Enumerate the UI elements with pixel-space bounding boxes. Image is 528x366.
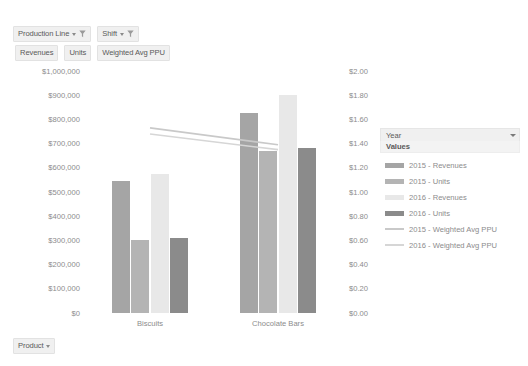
bar-data-point[interactable] xyxy=(240,113,258,313)
legend-item-label: 2015 - Weighted Avg PPU xyxy=(409,225,497,234)
field-button-weighted-avg-ppu[interactable]: Weighted Avg PPU xyxy=(97,45,170,61)
field-button-product[interactable]: Product xyxy=(13,338,55,354)
legend-item-label: 2016 - Revenues xyxy=(409,193,467,202)
legend-item[interactable]: 2016 - Weighted Avg PPU xyxy=(380,237,520,253)
legend-bar-swatch-icon xyxy=(385,163,404,168)
pivotchart-value-buttons: Revenues Units Weighted Avg PPU xyxy=(15,45,170,61)
legend-item-list: 2015 - Revenues2015 - Units2016 - Revenu… xyxy=(380,153,520,253)
legend-bar-swatch-icon xyxy=(385,195,404,200)
legend-line-swatch-icon xyxy=(385,228,404,229)
pivotchart-axis-buttons: Product xyxy=(13,338,55,354)
legend-swatch-wrap xyxy=(380,195,408,200)
chart-legend[interactable]: Year Values 2015 - Revenues2015 - Units2… xyxy=(380,128,520,253)
filter-funnel-icon xyxy=(127,30,134,38)
filter-funnel-icon xyxy=(79,30,86,38)
chevron-down-icon xyxy=(72,33,76,36)
legend-subheader-label: Values xyxy=(386,142,410,151)
field-button-units[interactable]: Units xyxy=(64,45,91,61)
field-button-label: Units xyxy=(69,47,86,58)
pivotchart-filter-buttons: Production Line Shift xyxy=(13,26,139,42)
field-button-label: Production Line xyxy=(18,28,69,39)
bar-data-point[interactable] xyxy=(131,240,149,313)
field-button-label: Weighted Avg PPU xyxy=(102,47,165,58)
field-button-label: Shift xyxy=(102,28,117,39)
legend-item-label: 2016 - Weighted Avg PPU xyxy=(409,241,497,250)
legend-item[interactable]: 2015 - Units xyxy=(380,173,520,189)
legend-bar-swatch-icon xyxy=(385,211,404,216)
bar-data-point[interactable] xyxy=(259,151,277,313)
legend-line-swatch-icon xyxy=(385,244,404,245)
legend-item[interactable]: 2016 - Units xyxy=(380,205,520,221)
bar-data-point[interactable] xyxy=(298,148,316,313)
legend-field-button-year[interactable]: Year xyxy=(380,128,520,141)
field-button-label: Product xyxy=(18,340,43,351)
field-button-revenues[interactable]: Revenues xyxy=(15,45,58,61)
legend-swatch-wrap xyxy=(380,179,408,184)
legend-swatch-wrap xyxy=(380,163,408,168)
field-button-shift[interactable]: Shift xyxy=(97,26,139,42)
legend-subheader-values: Values xyxy=(380,141,520,153)
bar-data-point[interactable] xyxy=(151,174,169,313)
chevron-down-icon xyxy=(120,33,124,36)
chevron-down-icon xyxy=(510,134,516,137)
legend-item[interactable]: 2015 - Revenues xyxy=(380,157,520,173)
legend-item-label: 2016 - Units xyxy=(409,209,450,218)
legend-swatch-wrap xyxy=(380,228,408,229)
bar-data-point[interactable] xyxy=(112,181,130,313)
field-button-label: Revenues xyxy=(20,47,53,58)
category-axis-tick-label: Chocolate Bars xyxy=(228,319,328,328)
legend-item[interactable]: 2016 - Revenues xyxy=(380,189,520,205)
field-button-production-line[interactable]: Production Line xyxy=(13,26,91,42)
legend-swatch-wrap xyxy=(380,211,408,216)
category-axis-tick-label: Biscuits xyxy=(100,319,200,328)
chevron-down-icon xyxy=(46,345,50,348)
legend-swatch-wrap xyxy=(380,244,408,245)
line-data-series[interactable] xyxy=(150,134,278,150)
legend-item[interactable]: 2015 - Weighted Avg PPU xyxy=(380,221,520,237)
legend-bar-swatch-icon xyxy=(385,179,404,184)
legend-header-label: Year xyxy=(386,131,510,140)
bar-data-point[interactable] xyxy=(170,238,188,313)
line-data-series[interactable] xyxy=(150,128,278,145)
legend-item-label: 2015 - Revenues xyxy=(409,161,467,170)
bar-data-point[interactable] xyxy=(279,95,297,313)
legend-item-label: 2015 - Units xyxy=(409,177,450,186)
